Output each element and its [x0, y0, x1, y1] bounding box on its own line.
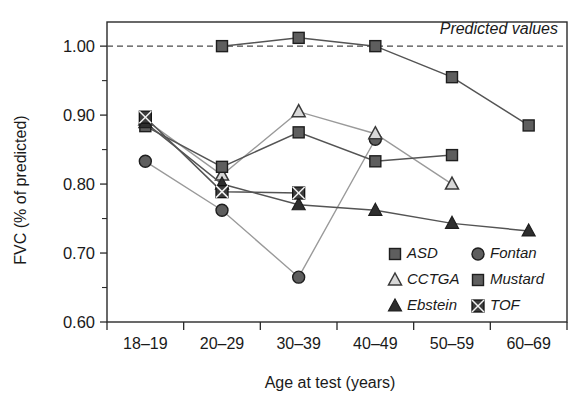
marker-circle: [216, 204, 228, 216]
legend-label-mustard: Mustard: [490, 270, 545, 287]
fvc-by-age-line-chart: 0.600.700.800.901.00 18–1920–2930–3940–4…: [0, 0, 581, 399]
marker-circle: [293, 271, 305, 283]
y-tick-label: 0.60: [63, 313, 95, 331]
x-tick-label: 60–69: [506, 335, 551, 352]
legend-label-ebstein: Ebstein: [407, 296, 457, 313]
legend-marker-tof: [472, 300, 484, 312]
datapoint-asd-50–59: [447, 72, 458, 83]
datapoint-fontan-18–19: [139, 155, 151, 167]
datapoint-fontan-30–39: [293, 271, 305, 283]
y-tick-label: 1.00: [63, 37, 95, 55]
marker-square: [370, 156, 381, 167]
legend-label-tof: TOF: [490, 296, 521, 313]
x-tick-label: 18–19: [123, 335, 168, 352]
x-tick-label: 20–29: [200, 335, 245, 352]
marker-square: [473, 275, 484, 286]
datapoint-tof-20–29: [216, 186, 228, 198]
legend-label-asd: ASD: [406, 244, 438, 261]
marker-square: [370, 41, 381, 52]
marker-square: [390, 249, 401, 260]
datapoint-asd-60–69: [523, 120, 534, 131]
y-tick-label: 0.70: [63, 244, 95, 262]
marker-square: [523, 120, 534, 131]
datapoint-mustard-40–49: [370, 156, 381, 167]
legend-label-fontan: Fontan: [490, 244, 537, 261]
marker-square: [217, 41, 228, 52]
marker-square: [293, 32, 304, 43]
marker-circle: [139, 155, 151, 167]
datapoint-mustard-20–29: [217, 161, 228, 172]
y-axis-title: FVC (% of predicted): [12, 115, 29, 264]
y-tick-label: 0.90: [63, 106, 95, 124]
datapoint-tof-30–39: [293, 187, 305, 199]
legend-marker-fontan: [472, 248, 484, 260]
marker-circle: [472, 248, 484, 260]
datapoint-fontan-20–29: [216, 204, 228, 216]
legend-marker-mustard: [473, 275, 484, 286]
marker-square: [293, 127, 304, 138]
datapoint-mustard-50–59: [447, 150, 458, 161]
x-tick-label: 40–49: [353, 335, 398, 352]
x-tick-label: 50–59: [430, 335, 475, 352]
marker-square: [447, 72, 458, 83]
datapoint-asd-40–49: [370, 41, 381, 52]
marker-square: [217, 161, 228, 172]
x-tick-label: 30–39: [276, 335, 321, 352]
datapoint-tof-18–19: [139, 111, 151, 123]
chart-figure: 0.600.700.800.901.00 18–1920–2930–3940–4…: [0, 0, 581, 399]
datapoint-mustard-30–39: [293, 127, 304, 138]
legend-label-cctga: CCTGA: [407, 270, 460, 287]
datapoint-asd-30–39: [293, 32, 304, 43]
y-tick-label: 0.80: [63, 175, 95, 193]
marker-square: [447, 150, 458, 161]
x-axis-title: Age at test (years): [265, 374, 396, 391]
datapoint-asd-20–29: [217, 41, 228, 52]
predicted-values-annotation: Predicted values: [440, 20, 558, 37]
legend-marker-asd: [390, 249, 401, 260]
